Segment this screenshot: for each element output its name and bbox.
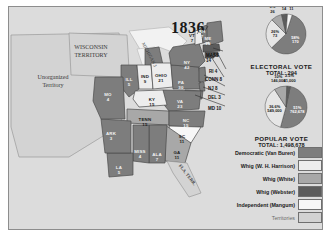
- state-votes: 5: [128, 82, 131, 87]
- state-votes: 7: [201, 34, 204, 39]
- us-map: 1836 UnorganizedTerritory WISCONSINTERRI…: [9, 7, 241, 229]
- state-votes: 11: [179, 139, 184, 144]
- legend-swatch: [298, 160, 322, 171]
- legend-label: Democratic (Van Buren): [235, 150, 298, 156]
- pie-label-independent-mangum: 3.8%11: [277, 6, 305, 11]
- state-label-louisiana: LA5: [105, 165, 133, 175]
- state-label-new-hampshire: NH7: [188, 29, 216, 39]
- legend-item-territories[interactable]: Territories: [241, 212, 322, 223]
- state-votes: 15: [149, 102, 154, 107]
- state-votes: 15: [142, 122, 147, 127]
- state-votes: 11: [174, 155, 179, 160]
- state-votes: 9: [144, 79, 147, 84]
- state-label-tennessee: TENN15: [131, 117, 159, 127]
- legend-swatch: [298, 186, 322, 197]
- state-label-georgia: GA11: [163, 150, 191, 160]
- legend-item-independent-mangum[interactable]: Independent (Mangum): [241, 199, 322, 210]
- pie-value: 41,000: [283, 78, 295, 83]
- rhode-island-leader: RI 4: [209, 69, 217, 74]
- state-votes: 21: [158, 78, 163, 83]
- legend-swatch: [298, 173, 322, 184]
- legend-item-whig-white[interactable]: Whig (White): [241, 173, 322, 184]
- delaware-shape: [199, 82, 205, 91]
- stats-panel: ELECTORAL VOTE TOTAL: 294 58%17026%739%2…: [241, 7, 322, 229]
- state-votes: 4: [107, 97, 110, 102]
- legend-swatch: [298, 212, 322, 223]
- pie-value: 549,000: [267, 108, 281, 113]
- legend-item-whig-webster[interactable]: Whig (Webster): [241, 186, 322, 197]
- state-label-missouri: MO4: [94, 92, 122, 102]
- state-label-arkansas: ARK3: [97, 131, 125, 141]
- state-label-illinois: ILL5: [115, 77, 143, 87]
- state-votes: 42: [184, 65, 189, 70]
- pie-value: 73: [273, 33, 277, 38]
- unorganized-territory-label: UnorganizedTerritory: [9, 73, 97, 89]
- pie-label-whig-webster: 2.5%41,000: [276, 74, 304, 83]
- pie-value: 762,678: [290, 109, 304, 114]
- map-legend: Democratic (Van Buren)Whig (W. H. Harris…: [241, 147, 322, 225]
- legend-label: Territories: [272, 215, 298, 221]
- state-votes: 5: [118, 170, 121, 175]
- electoral-vote-title: ELECTORAL VOTE: [241, 63, 322, 70]
- state-votes: 3: [110, 136, 113, 141]
- state-label-north-carolina: NC15: [172, 118, 200, 128]
- legend-swatch: [298, 199, 322, 210]
- state-votes: 4: [139, 154, 142, 159]
- connecticut-leader: CONN 8: [205, 77, 222, 82]
- maryland-leader: MD 10: [208, 106, 221, 111]
- state-label-virginia: VA23: [166, 99, 194, 109]
- pie-value: 170: [292, 39, 299, 44]
- state-votes: 15: [183, 123, 188, 128]
- legend-label: Independent (Mangum): [237, 202, 298, 208]
- state-label-new-york: NY42: [173, 60, 201, 70]
- delaware-leader: DEL 3: [208, 95, 221, 100]
- electoral-vote-chart: ELECTORAL VOTE TOTAL: 294 58%17026%739%2…: [241, 7, 322, 65]
- state-votes: 23: [177, 104, 182, 109]
- popular-vote-title: POPULAR VOTE: [241, 135, 322, 142]
- state-votes: 10: [205, 41, 210, 46]
- state-votes: 7: [156, 157, 159, 162]
- legend-item-democratic[interactable]: Democratic (Van Buren): [241, 147, 322, 158]
- legend-swatch: [298, 147, 322, 158]
- figure-frame: 1836 UnorganizedTerritory WISCONSINTERRI…: [8, 6, 323, 230]
- pie-value: 11: [289, 6, 293, 11]
- pie-label-whig-harrison: 36.6%549,000: [261, 105, 289, 114]
- legend-item-whig-harrison[interactable]: Whig (W. H. Harrison): [241, 160, 322, 171]
- legend-label: Whig (Webster): [256, 189, 298, 195]
- state-label-kentucky: KY15: [138, 97, 166, 107]
- state-label-south-carolina: SC11: [168, 134, 196, 144]
- pie-label-whig-harrison: 26%73: [261, 30, 289, 39]
- election-map-figure: 1836 UnorganizedTerritory WISCONSINTERRI…: [0, 0, 329, 234]
- legend-label: Whig (W. H. Harrison): [241, 163, 298, 169]
- legend-label: Whig (White): [263, 176, 298, 182]
- massachusetts-leader: MASS14: [206, 53, 219, 63]
- new-jersey-leader: NJ 8: [208, 86, 218, 91]
- wisconsin-territory-label: WISCONSINTERRITORY: [49, 43, 133, 59]
- state-votes: 30: [178, 85, 183, 90]
